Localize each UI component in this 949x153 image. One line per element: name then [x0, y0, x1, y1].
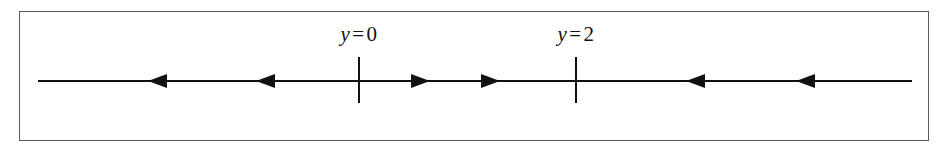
equilibrium-label-y0-relation: = [350, 22, 366, 46]
phase-line-figure: y=0 y=2 [0, 0, 949, 153]
equilibrium-label-y0-variable: y [340, 22, 350, 46]
flow-arrowhead-left [256, 74, 275, 88]
flow-arrowhead-left [148, 74, 167, 88]
equilibrium-label-y2-value: 2 [584, 22, 595, 46]
flow-arrowhead-left [686, 74, 705, 88]
equilibrium-label-y2-variable: y [557, 22, 567, 46]
equilibrium-label-y0-value: 0 [367, 22, 378, 46]
equilibrium-label-y2-relation: = [567, 22, 583, 46]
flow-arrowhead-left [796, 74, 815, 88]
flow-arrowhead-right [411, 74, 430, 88]
equilibrium-label-y0: y=0 [340, 24, 377, 45]
equilibrium-label-y2: y=2 [557, 24, 594, 45]
flow-arrowhead-right [481, 74, 500, 88]
phase-line-canvas [0, 0, 949, 153]
